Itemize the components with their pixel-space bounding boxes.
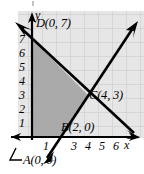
y-tick-3: 3 (16, 89, 28, 101)
point-label-b: B(2, 0) (61, 121, 94, 134)
coordinate-plane-figure: 7 6 5 4 3 2 1 1 3 4 5 6 y x D(0, 7) C(4,… (0, 0, 144, 174)
point-label-a: A(0, 0) (23, 154, 56, 167)
y-tick-7: 7 (16, 33, 28, 45)
x-tick-3: 3 (68, 140, 80, 152)
x-tick-4: 4 (82, 140, 94, 152)
y-tick-6: 6 (16, 47, 28, 59)
x-axis-label: x (124, 139, 129, 151)
x-tick-5: 5 (96, 140, 108, 152)
y-tick-1: 1 (16, 117, 28, 129)
y-tick-4: 4 (16, 75, 28, 87)
label-leader-line-a (10, 148, 22, 160)
point-label-c: C(4, 3) (89, 89, 123, 102)
x-tick-6: 6 (110, 140, 122, 152)
y-tick-5: 5 (16, 61, 28, 73)
x-tick-1: 1 (40, 140, 52, 152)
y-tick-2: 2 (16, 103, 28, 115)
point-label-d: D(0, 7) (36, 17, 71, 30)
